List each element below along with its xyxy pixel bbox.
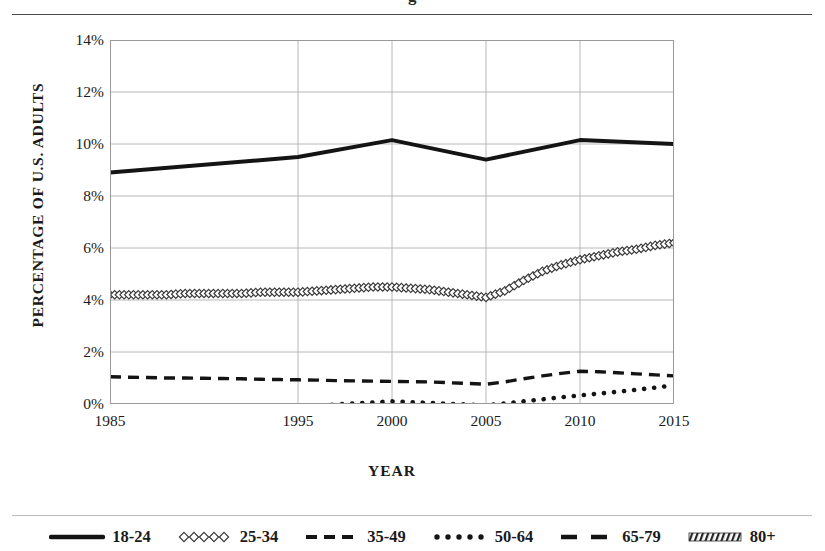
- x-tick-label: 1995: [258, 412, 338, 430]
- legend-item-label: 80+: [750, 527, 776, 547]
- y-tick-label: 6%: [42, 241, 104, 255]
- legend-item-80+[interactable]: 80+: [687, 527, 776, 547]
- chart-svg: [110, 40, 674, 404]
- dashed-swatch: [304, 530, 360, 544]
- y-tick-label: 4%: [42, 293, 104, 307]
- x-tick-label: 2005: [446, 412, 526, 430]
- y-tick-label: 10%: [42, 137, 104, 151]
- legend-item-label: 65-79: [622, 527, 661, 547]
- solid-thick-swatch: [49, 530, 105, 544]
- x-axis-tick-labels: 198519952000200520102015: [110, 412, 674, 436]
- legend-item-label: 25-34: [240, 527, 279, 547]
- dotted-swatch: [432, 530, 488, 544]
- legend-item-35-49[interactable]: 35-49: [304, 527, 406, 547]
- y-tick-label: 8%: [42, 189, 104, 203]
- y-tick-label: 0%: [42, 397, 104, 411]
- y-tick-label: 14%: [42, 33, 104, 47]
- cropped-title-strip: g: [0, 0, 825, 14]
- chart-legend: 18-2425-3435-4950-6465-7980+: [0, 522, 825, 551]
- y-tick-label: 12%: [42, 85, 104, 99]
- legend-item-label: 50-64: [495, 527, 534, 547]
- diamond-swatch: [177, 530, 233, 544]
- x-tick-label: 2015: [634, 412, 714, 430]
- long-dash-swatch: [559, 530, 615, 544]
- x-axis-title: YEAR: [110, 462, 674, 480]
- legend-item-65-79[interactable]: 65-79: [559, 527, 661, 547]
- plot-area: [110, 40, 674, 404]
- legend-item-label: 18-24: [112, 527, 151, 547]
- hatched-swatch: [687, 530, 743, 544]
- legend-item-50-64[interactable]: 50-64: [432, 527, 534, 547]
- legend-divider: [12, 515, 812, 516]
- gridlines: [110, 40, 674, 404]
- x-tick-label: 2000: [352, 412, 432, 430]
- x-tick-label: 1985: [70, 412, 150, 430]
- figure: g PERCENTAGE OF U.S. ADULTS 0%2%4%6%8%10…: [0, 0, 825, 551]
- x-tick-label: 2010: [540, 412, 620, 430]
- cropped-title-text: g: [0, 0, 825, 6]
- y-axis-tick-labels: 0%2%4%6%8%10%12%14%: [34, 40, 104, 404]
- y-tick-label: 2%: [42, 345, 104, 359]
- top-divider: [12, 14, 812, 15]
- legend-item-label: 35-49: [367, 527, 406, 547]
- legend-item-25-34[interactable]: 25-34: [177, 527, 279, 547]
- legend-item-18-24[interactable]: 18-24: [49, 527, 151, 547]
